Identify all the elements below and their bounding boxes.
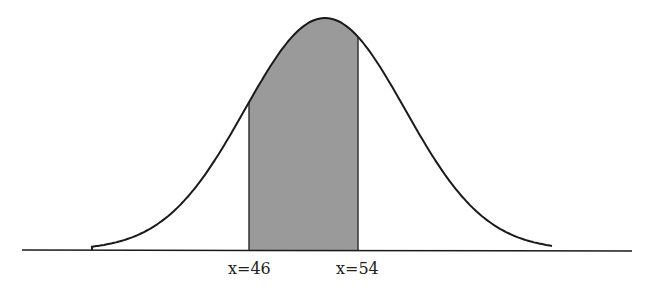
label-x-46: x=46 bbox=[228, 259, 271, 278]
x-axis-baseline bbox=[22, 250, 632, 251]
normal-curve-diagram bbox=[0, 0, 655, 299]
shaded-area-between-46-and-54 bbox=[249, 18, 358, 250]
label-x-54: x=54 bbox=[336, 259, 379, 278]
